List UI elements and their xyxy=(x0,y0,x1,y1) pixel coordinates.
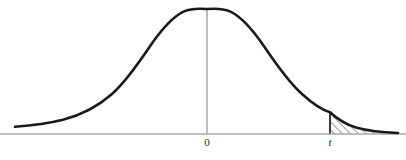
axis-tick-label-t: t xyxy=(318,137,342,148)
figure-canvas xyxy=(0,0,406,160)
axis-tick-label-zero: 0 xyxy=(195,137,219,148)
distribution-figure: 0 t xyxy=(0,0,406,160)
